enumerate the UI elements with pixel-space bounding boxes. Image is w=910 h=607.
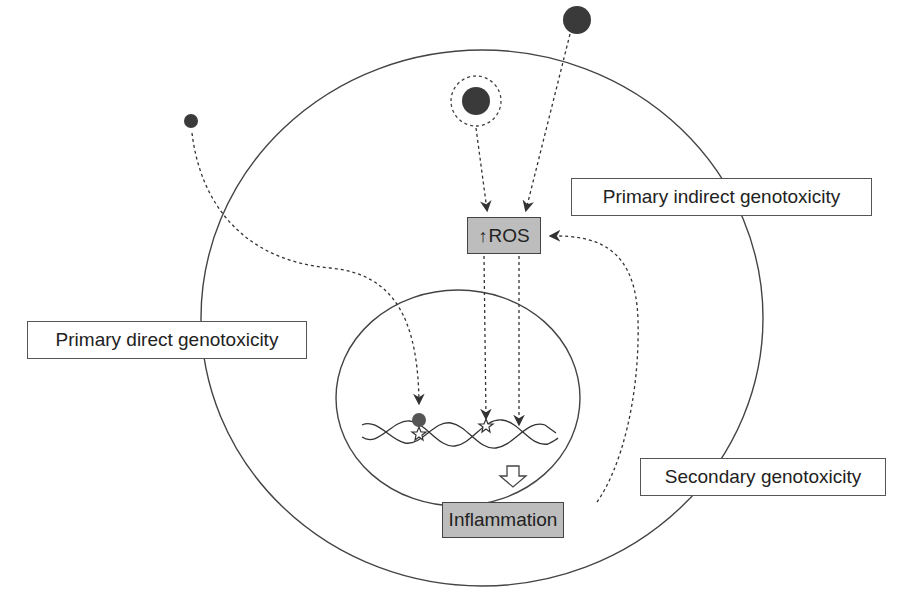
nucleus-membrane: [336, 290, 580, 506]
ros-label: ROS: [488, 225, 529, 247]
inflammation-label: Inflammation: [449, 509, 558, 531]
secondary-genotoxicity-label: Secondary genotoxicity: [640, 458, 886, 496]
coated-particle-icon: [462, 87, 490, 115]
ros-node: ↑ ROS: [467, 217, 541, 254]
primary-direct-genotoxicity-label: Primary direct genotoxicity: [27, 321, 307, 359]
ros-to-dna-arrow-1: [484, 256, 486, 418]
dna-strand-2: [362, 420, 558, 446]
coated-particle-to-ros-arrow: [476, 128, 487, 210]
small-particle-icon: [184, 114, 198, 128]
direct-pathway-arrow: [192, 133, 419, 403]
large-particle-icon: [563, 6, 591, 34]
primary-indirect-text: Primary indirect genotoxicity: [603, 186, 841, 208]
inflammation-to-ros-arrow: [551, 236, 638, 502]
bound-particle-icon: [412, 413, 426, 427]
increase-arrow-icon: ↑: [478, 227, 487, 245]
large-particle-to-ros-arrow: [526, 34, 570, 210]
inflammation-node: Inflammation: [442, 502, 564, 538]
dna-damage-star-icon: [412, 427, 426, 440]
primary-direct-text: Primary direct genotoxicity: [56, 329, 279, 351]
dna-damage-star-icon: [479, 419, 493, 432]
primary-indirect-genotoxicity-label: Primary indirect genotoxicity: [571, 178, 872, 216]
hollow-down-arrow-icon: [500, 466, 526, 487]
secondary-text: Secondary genotoxicity: [665, 466, 861, 488]
